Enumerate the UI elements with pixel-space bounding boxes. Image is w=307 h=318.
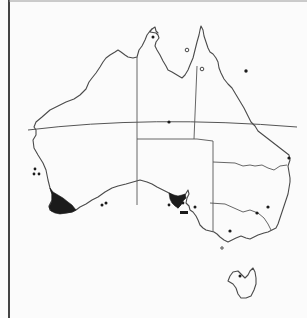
locality-dot-marker bbox=[239, 275, 242, 278]
locality-ring-marker bbox=[221, 247, 223, 249]
state-borders bbox=[137, 57, 287, 232]
qld-nsw-border bbox=[213, 162, 287, 170]
locality-dot-marker bbox=[228, 229, 231, 232]
distribution-areas bbox=[49, 188, 186, 214]
locality-ring-marker bbox=[200, 67, 204, 71]
locality-dot-marker bbox=[255, 211, 258, 214]
nt-qld-border bbox=[194, 66, 197, 139]
locality-dot-marker bbox=[38, 173, 41, 176]
locality-ring-marker bbox=[185, 48, 189, 52]
tasmania-coastline bbox=[228, 268, 256, 298]
locality-records bbox=[33, 36, 291, 278]
distribution-area-south-australia-gulf-region bbox=[169, 193, 186, 208]
sa-qld-border bbox=[197, 139, 213, 141]
locality-dot-marker bbox=[101, 204, 104, 207]
locality-dot-marker bbox=[33, 173, 36, 176]
locality-dot-marker bbox=[34, 168, 37, 171]
locality-dot-marker bbox=[244, 69, 247, 72]
locality-dot-marker bbox=[287, 156, 290, 159]
locality-dot-marker bbox=[266, 205, 269, 208]
locality-dot-marker bbox=[105, 202, 108, 205]
distribution-map bbox=[0, 0, 307, 318]
locality-dot-marker bbox=[194, 206, 197, 209]
map-canvas bbox=[0, 0, 307, 318]
distribution-area-south-west-western-australia bbox=[49, 188, 76, 214]
locality-bar-marker bbox=[180, 211, 188, 214]
locality-dot-marker bbox=[168, 204, 171, 207]
locality-dot-marker bbox=[182, 202, 185, 205]
nsw-vic-border bbox=[210, 203, 271, 230]
locality-dot-marker bbox=[167, 120, 170, 123]
locality-dot-marker bbox=[152, 36, 155, 39]
